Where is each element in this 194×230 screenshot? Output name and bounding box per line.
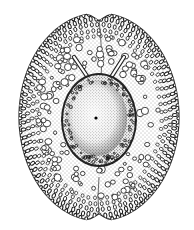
specimen-drawing [0, 0, 194, 230]
specimen-illustration [0, 0, 194, 230]
nucleus [61, 73, 137, 167]
center-dot [94, 116, 97, 119]
